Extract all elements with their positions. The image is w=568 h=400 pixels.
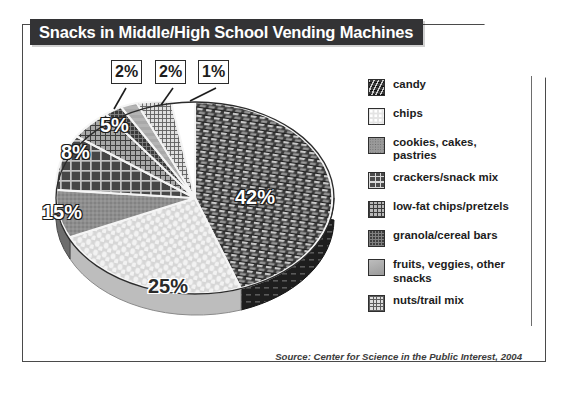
legend-item-fruits[interactable]: fruits, veggies, other snacks [368,258,548,284]
legend-item-cookies[interactable]: cookies, cakes, pastries [368,136,548,162]
legend-label-granola: granola/cereal bars [393,229,497,242]
legend-label-candy: candy [393,78,426,91]
legend-item-candy[interactable]: candy [368,78,548,96]
legend-label-cookies-line2: pastries [393,149,437,161]
lowfat-swatch-icon [368,201,385,218]
callout-nuts: 1% [198,60,229,84]
legend-label-fruits-line1: fruits, veggies, other [393,258,505,270]
legend-item-nuts[interactable]: nuts/trail mix [368,294,548,312]
legend-item-chips[interactable]: chips [368,107,548,125]
legend-label-crackers: crackers/snack mix [393,171,498,184]
legend-label-nuts: nuts/trail mix [393,294,464,307]
legend-label-fruits-line2: snacks [393,272,432,284]
pie-svg [30,70,360,360]
nuts-swatch-icon [368,295,385,312]
callout-granola: 2% [111,60,142,84]
fruits-swatch-icon [368,259,385,276]
callout-fruits: 2% [155,60,186,84]
legend-label-cookies-line1: cookies, cakes, [393,136,477,148]
legend-item-lowfat[interactable]: low-fat chips/pretzels [368,200,548,218]
legend-label-fruits: fruits, veggies, other snacks [393,258,505,284]
granola-swatch-icon [368,230,385,247]
candy-swatch-icon [368,79,385,96]
pie-slices [56,102,332,294]
legend-item-crackers[interactable]: crackers/snack mix [368,171,548,189]
pie-chart: 42% 25% 15% 8% 5% [30,70,360,360]
cookies-swatch-icon [368,137,385,154]
legend: candy chips cookies, cakes, pastries cra… [368,78,548,323]
legend-item-granola[interactable]: granola/cereal bars [368,229,548,247]
chart-figure: Snacks in Middle/High School Vending Mac… [0,0,568,400]
legend-label-cookies: cookies, cakes, pastries [393,136,477,162]
legend-divider [531,76,532,326]
source-note: Source: Center for Science in the Public… [275,351,522,362]
crackers-swatch-icon [368,172,385,189]
legend-label-lowfat: low-fat chips/pretzels [393,200,509,213]
chart-title-banner: Snacks in Middle/High School Vending Mac… [30,19,423,45]
legend-label-chips: chips [393,107,423,120]
chips-swatch-icon [368,108,385,125]
page-title: Snacks in Middle/High School Vending Mac… [39,23,413,42]
